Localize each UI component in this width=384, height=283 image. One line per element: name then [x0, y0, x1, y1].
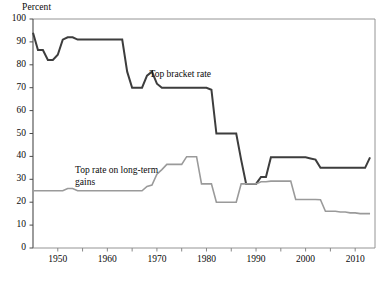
y-tick-30: 30 [0, 173, 26, 183]
tax-rate-line-chart: Percent 0102030405060708090100 195019601… [0, 0, 384, 283]
series-label-long-term-gains: Top rate on long-term gains [75, 165, 158, 188]
y-tick-70: 70 [0, 82, 26, 92]
y-tick-0: 0 [0, 242, 26, 252]
y-tick-90: 90 [0, 36, 26, 46]
y-axis-unit-label: Percent [22, 2, 51, 12]
chart-plot-area [0, 0, 384, 283]
x-tick-1950: 1950 [40, 254, 76, 264]
x-tick-1990: 1990 [238, 254, 274, 264]
x-tick-1960: 1960 [89, 254, 125, 264]
y-tick-50: 50 [0, 128, 26, 138]
x-tick-1980: 1980 [189, 254, 225, 264]
series-line-0 [33, 33, 370, 184]
y-tick-40: 40 [0, 150, 26, 160]
x-tick-2010: 2010 [337, 254, 373, 264]
y-tick-100: 100 [0, 13, 26, 23]
x-tick-2000: 2000 [288, 254, 324, 264]
series-label-top-bracket-rate: Top bracket rate [150, 69, 212, 81]
y-tick-20: 20 [0, 196, 26, 206]
y-tick-60: 60 [0, 105, 26, 115]
y-tick-80: 80 [0, 59, 26, 69]
x-tick-1970: 1970 [139, 254, 175, 264]
y-tick-10: 10 [0, 219, 26, 229]
